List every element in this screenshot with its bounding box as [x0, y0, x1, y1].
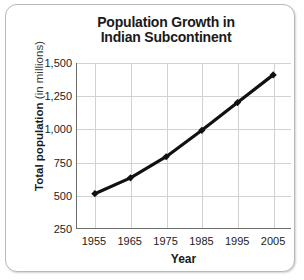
y-axis-tick-label: 750	[28, 157, 72, 169]
y-axis-tick-label: 250	[28, 223, 72, 235]
figure-frame: Population Growth in Indian Subcontinent…	[5, 4, 295, 272]
y-axis-tick-label: 500	[28, 190, 72, 202]
series-line-chart	[77, 63, 291, 228]
y-axis-tick-labels: 1,5001,2501,000750500250	[24, 63, 72, 229]
x-axis-title: Year	[76, 252, 291, 266]
y-axis-tick-label: 1,000	[28, 123, 72, 135]
plot-area	[76, 63, 291, 229]
chart-title: Population Growth in Indian Subcontinent	[56, 15, 276, 45]
chart-title-line-2: Indian Subcontinent	[56, 30, 276, 45]
y-axis-tick-label: 1,250	[28, 90, 72, 102]
y-axis-tick-label: 1,500	[28, 57, 72, 69]
x-axis-tick-label: 2005	[250, 235, 296, 247]
x-axis-tick-labels: 195519651975198519952005	[76, 235, 291, 251]
series-line	[95, 75, 273, 194]
chart-title-line-1: Population Growth in	[56, 15, 276, 30]
